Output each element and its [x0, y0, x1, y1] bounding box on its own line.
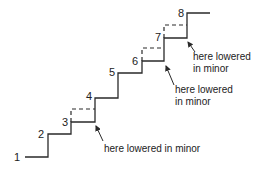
note-text: here lowered — [175, 84, 233, 95]
note-text: in minor — [193, 63, 229, 74]
note-text: here lowered in minor — [104, 143, 201, 154]
note-text: in minor — [175, 96, 211, 107]
step-label: 1 — [14, 151, 20, 163]
dashed-major-step — [164, 25, 187, 38]
dashed-major-step — [142, 48, 164, 61]
step-label: 7 — [155, 31, 161, 43]
arrow-icon — [96, 126, 103, 141]
lowered-note: here lowered in minor — [96, 126, 201, 154]
step-label: 4 — [86, 90, 92, 102]
dashed-major-step — [71, 109, 95, 122]
step-label: 6 — [132, 55, 138, 67]
step-label: 2 — [38, 128, 44, 140]
step-label: 3 — [62, 116, 68, 128]
lowered-annotations: here lowered in minorhere loweredin mino… — [96, 42, 251, 154]
arrow-icon — [166, 66, 174, 85]
step-label: 8 — [178, 7, 184, 19]
step-label: 5 — [109, 66, 115, 78]
lowered-note: here loweredin minor — [188, 42, 251, 74]
scale-staircase-diagram: 12345678 here lowered in minorhere lower… — [0, 0, 262, 169]
step-labels: 12345678 — [14, 7, 184, 163]
note-text: here lowered — [193, 51, 251, 62]
